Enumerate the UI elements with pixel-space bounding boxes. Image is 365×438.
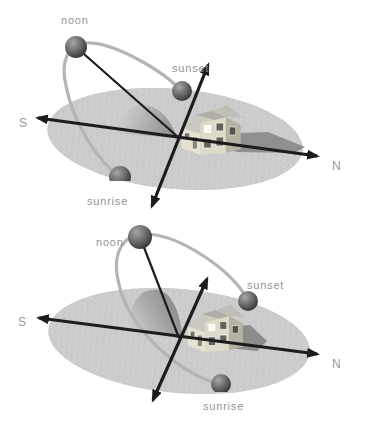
noon-sun	[65, 36, 87, 58]
south-label: S	[18, 315, 27, 329]
diagram-low-sun-path: noon sunset sunrise S N	[19, 14, 341, 207]
sunrise-label: sunrise	[203, 400, 244, 412]
sunrise-sun	[109, 166, 131, 188]
sunset-sun	[238, 291, 258, 311]
north-label: N	[332, 357, 341, 371]
sunset-sun	[172, 81, 192, 101]
noon-sun	[128, 225, 152, 249]
sun-path-figure: noon sunset sunrise S N noon sunset sunr…	[0, 0, 365, 438]
sun-path-svg: noon sunset sunrise S N noon sunset sunr…	[0, 0, 365, 438]
sunrise-sun	[211, 374, 231, 394]
sunrise-label: sunrise	[87, 195, 128, 207]
noon-label: noon	[61, 14, 89, 26]
diagram-high-sun-path: noon sunset sunrise S N	[18, 225, 341, 412]
sunset-label: sunset	[247, 279, 284, 291]
noon-label: noon	[96, 236, 124, 248]
north-label: N	[332, 159, 341, 173]
south-label: S	[19, 116, 28, 130]
sunset-label: sunset	[172, 62, 209, 74]
